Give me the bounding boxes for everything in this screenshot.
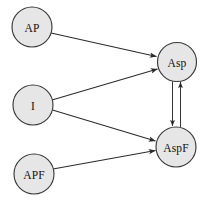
- node-aspf-label: AspF: [163, 142, 189, 155]
- node-group: AP I APF Asp AspF: [12, 7, 197, 194]
- node-aspf[interactable]: AspF: [156, 127, 196, 167]
- edge-ap-to-asp: [51, 33, 157, 57]
- node-apf-label: APF: [23, 169, 45, 181]
- graph-svg: AP I APF Asp AspF: [0, 0, 207, 205]
- node-ap[interactable]: AP: [12, 7, 52, 47]
- node-apf[interactable]: APF: [14, 154, 54, 194]
- node-ap-label: AP: [24, 22, 39, 34]
- node-i-label: I: [31, 100, 35, 112]
- edge-apf-to-aspf: [53, 151, 156, 170]
- edge-i-to-asp: [52, 69, 158, 100]
- diagram-canvas: AP I APF Asp AspF: [0, 0, 207, 205]
- edge-i-to-aspf: [53, 110, 156, 141]
- node-i[interactable]: I: [13, 85, 53, 125]
- node-asp[interactable]: Asp: [158, 43, 197, 82]
- node-asp-label: Asp: [167, 57, 186, 70]
